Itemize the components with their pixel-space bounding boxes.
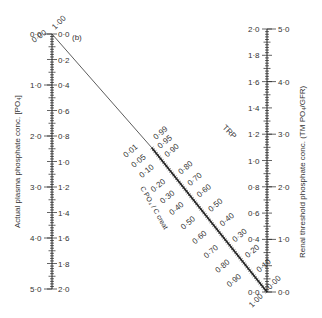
right-axis-right-tick-label: 1·0	[278, 235, 290, 244]
cpo4-tick-label: 0·30	[158, 188, 176, 206]
trp-label: TRP	[221, 123, 239, 141]
left-axis-left-tick-label: 3·0	[30, 183, 42, 192]
left-axis-title: Actual plasma phosphate conc. [PO₄]	[13, 95, 22, 228]
right-axis-right-tick-label: 3·0	[278, 130, 290, 139]
connector-line	[52, 34, 152, 148]
cpo4-tick-label: 0·50	[179, 214, 197, 232]
left-axis-ticks	[44, 34, 57, 289]
panel-label: (b)	[72, 33, 82, 42]
cpo4-tick-label: 0·90	[225, 272, 243, 290]
right-axis-left-tick-label: 0·8	[248, 183, 260, 192]
trp-tick-label: 0·20	[243, 242, 261, 260]
right-axis-right-tick-label: 4·0	[278, 78, 290, 87]
right-axis-left-tick-label: 1·8	[248, 51, 260, 60]
right-axis-right-tick-label: 2·0	[278, 183, 290, 192]
right-axis-left-tick-label: 1·6	[248, 78, 260, 87]
right-axis-right-tick-label: 0·0	[278, 288, 290, 297]
left-top-diag-label: 1·00	[50, 13, 68, 31]
trp-tick-label: 0·60	[195, 182, 213, 200]
trp-tick-label: 0·30	[231, 226, 249, 244]
left-axis-right-tick-label: 1·0	[58, 158, 70, 167]
left-axis-left-tick-label: 2·0	[30, 132, 42, 141]
left-axis-right-tick-label: 0·4	[58, 81, 70, 90]
left-axis-left-tick-label: 5·0	[30, 285, 42, 294]
nomogram: 0·00·20·40·60·81·01·21·41·61·82·00·01·02…	[0, 0, 322, 318]
left-axis-right-tick-label: 0·8	[58, 132, 70, 141]
right-axis-left-tick-label: 1·0	[248, 157, 260, 166]
left-axis-right-tick-label: 1·6	[58, 234, 70, 243]
cpo4-tick-label: 0·60	[191, 228, 209, 246]
right-axis-left-tick-label: 2·0	[248, 25, 260, 34]
left-axis-right-tick-label: 0·6	[58, 107, 70, 116]
left-axis-right-tick-label: 0·2	[58, 56, 70, 65]
left-axis-right-tick-label: 2·0	[58, 285, 70, 294]
left-axis-left-tick-label: 4·0	[30, 234, 42, 243]
cpo4-tick-label: 0·40	[168, 200, 186, 218]
cpo4-tick-label: 0·80	[214, 257, 232, 275]
right-axis-ticks	[262, 29, 276, 292]
right-axis-right-tick-label: 5·0	[278, 25, 290, 34]
trp-tick-label: 0·50	[206, 196, 224, 214]
trp-tick-label: 0·80	[177, 159, 195, 177]
trp-tick-label: 0·70	[186, 170, 204, 188]
trp-tick-label: 0·40	[218, 211, 236, 229]
right-axis-left-tick-label: 0·6	[248, 209, 260, 218]
left-axis-right-tick-label: 1·2	[58, 183, 70, 192]
trp-tick-label: 0·10	[255, 257, 273, 275]
cpo4-tick-label: 0·70	[202, 243, 220, 261]
left-axis-right-tick-label: 1·4	[58, 209, 70, 218]
left-axis-left-tick-label: 1·0	[30, 81, 42, 90]
left-axis-right-tick-label: 0·0	[58, 30, 70, 39]
cpo4-tick-label: 0·20	[149, 177, 167, 195]
right-axis-left-tick-label: 1·2	[248, 130, 260, 139]
right-axis-left-tick-label: 1·4	[248, 104, 260, 113]
right-axis-title: Renal threshold phosphate conc. (TM PO₄/…	[298, 85, 307, 258]
left-axis-right-tick-label: 1·8	[58, 260, 70, 269]
